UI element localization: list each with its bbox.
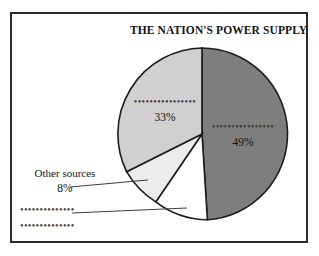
pie-label-33: •••••••••••••••• 33% (128, 96, 202, 124)
pie-label-other-sources: Other sources 8% (16, 166, 114, 196)
pie-label-other-sources-value: 8% (16, 181, 114, 196)
pie-label-49: •••••••••••••••• 49% (206, 121, 280, 149)
pie-label-33-value: 33% (128, 110, 202, 124)
pie-label-redacted-1-text: •••••••••••••• (20, 204, 116, 215)
pie-label-redacted-1: •••••••••••••• (20, 204, 116, 215)
figure-canvas: THE NATION'S POWER SUPPLY ••••••••••••••… (0, 0, 319, 256)
pie-label-redacted-2-text: •••••••••••••• (20, 220, 116, 231)
pie-label-other-sources-name: Other sources (16, 166, 114, 180)
pie-label-redacted-2: •••••••••••••• (20, 220, 116, 231)
pie-label-33-name: •••••••••••••••• (128, 96, 202, 109)
pie-label-49-value: 49% (206, 135, 280, 149)
pie-label-49-name: •••••••••••••••• (206, 121, 280, 134)
